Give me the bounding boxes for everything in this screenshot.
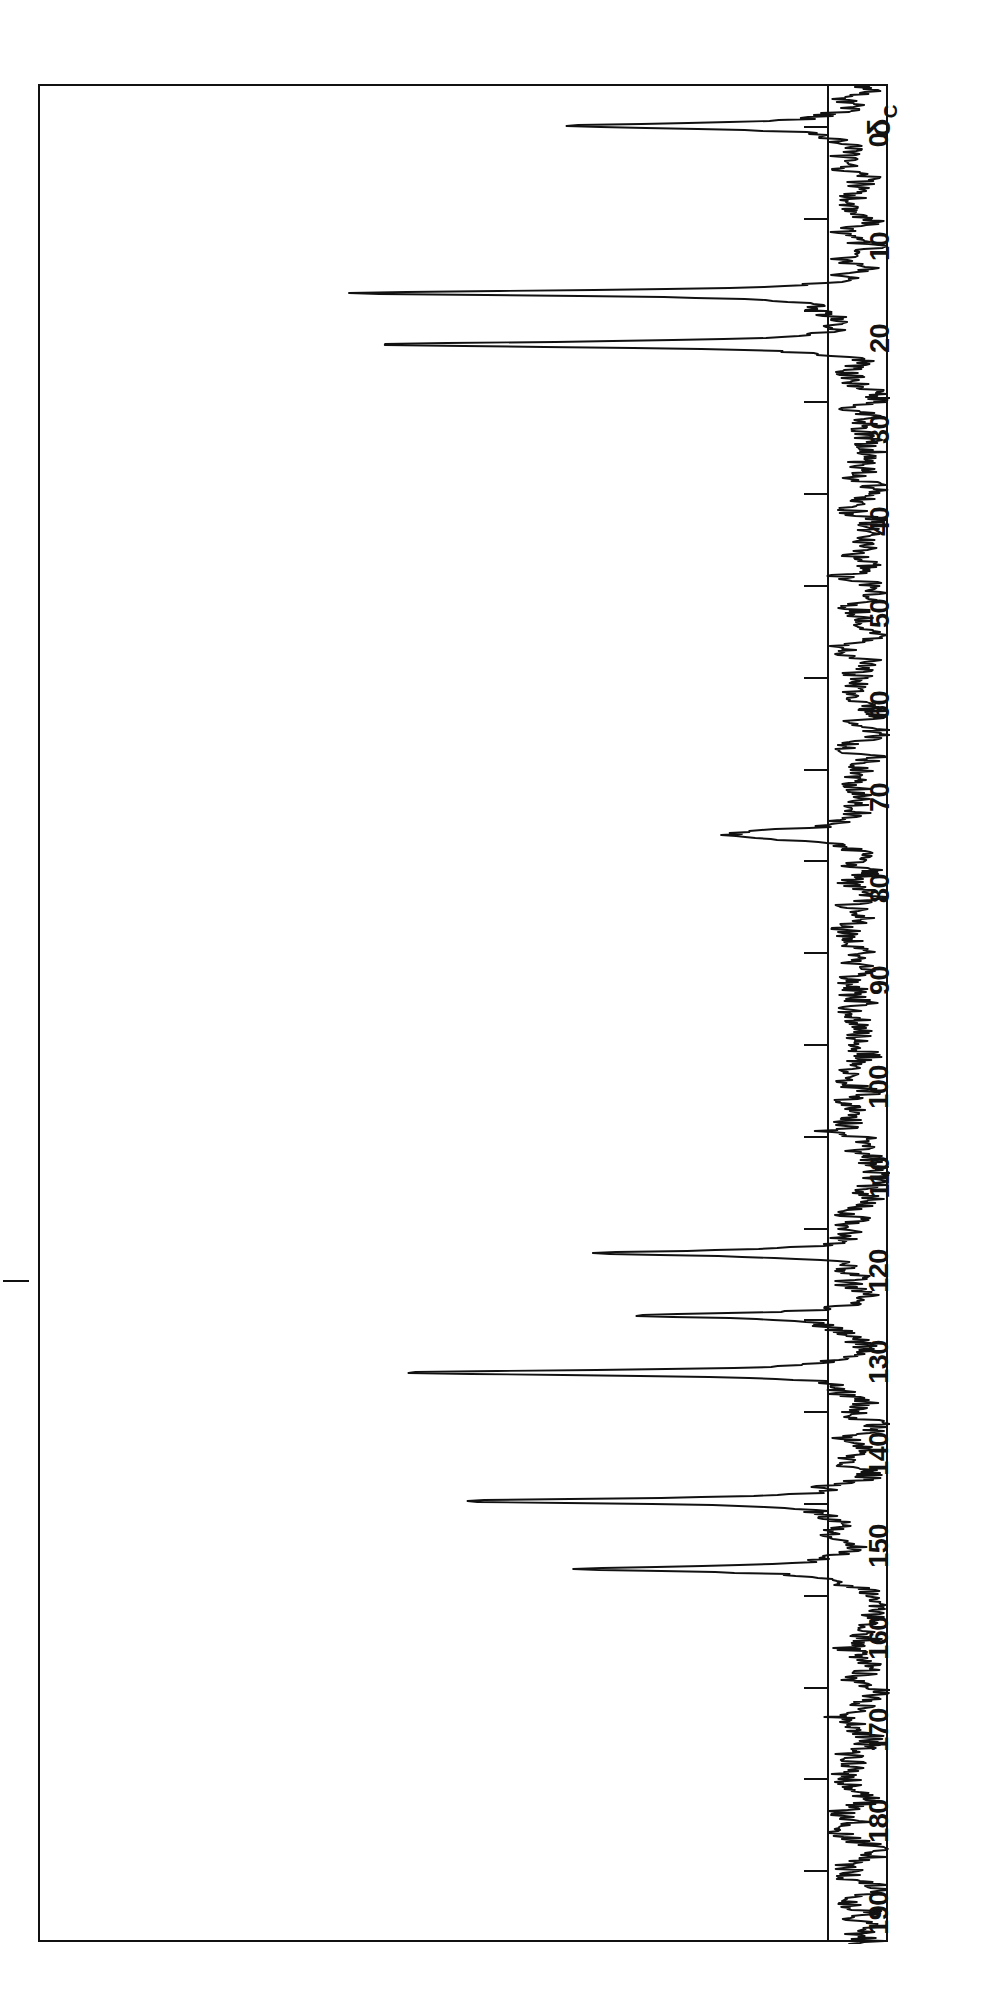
axis-tick-label-190: 190 xyxy=(865,1891,896,1935)
axis-tick-110 xyxy=(804,1136,828,1138)
axis-tick-100 xyxy=(804,1044,828,1046)
axis-tick-150 xyxy=(804,1503,828,1505)
axis-tick-10 xyxy=(804,218,828,220)
axis-tick-label-130: 130 xyxy=(865,1341,896,1385)
axis-tick-label-100: 100 xyxy=(865,1065,896,1109)
axis-tick-label-160: 160 xyxy=(865,1616,896,1660)
chemical-shift-axis: 0102030405060708090100110120130140150160… xyxy=(814,86,886,1940)
axis-tick-label-10: 10 xyxy=(865,232,896,261)
axis-tick-190 xyxy=(804,1870,828,1872)
axis-tick-50 xyxy=(804,585,828,587)
axis-tick-label-20: 20 xyxy=(865,324,896,353)
axis-title-delta-c: δC xyxy=(862,104,902,137)
spectrum-trace xyxy=(40,86,890,1944)
axis-line xyxy=(827,86,829,1940)
axis-tick-label-70: 70 xyxy=(865,783,896,812)
axis-tick-140 xyxy=(804,1411,828,1413)
axis-tick-label-180: 180 xyxy=(865,1800,896,1844)
axis-tick-label-50: 50 xyxy=(865,599,896,628)
axis-tick-80 xyxy=(804,860,828,862)
axis-tick-170 xyxy=(804,1687,828,1689)
axis-tick-40 xyxy=(804,493,828,495)
axis-tick-130 xyxy=(804,1319,828,1321)
axis-tick-label-170: 170 xyxy=(865,1708,896,1752)
axis-tick-label-140: 140 xyxy=(865,1432,896,1476)
stray-tick-mark xyxy=(3,1280,29,1282)
nmr-trace-path xyxy=(349,86,890,1944)
axis-tick-label-110: 110 xyxy=(865,1156,896,1198)
axis-tick-180 xyxy=(804,1778,828,1780)
axis-tick-label-60: 60 xyxy=(865,691,896,720)
figure-canvas: 0102030405060708090100110120130140150160… xyxy=(0,0,984,2008)
axis-tick-label-90: 90 xyxy=(865,966,896,995)
axis-tick-120 xyxy=(804,1228,828,1230)
axis-tick-0 xyxy=(804,126,828,128)
axis-tick-160 xyxy=(804,1595,828,1597)
axis-tick-20 xyxy=(804,310,828,312)
spectrum-frame: 0102030405060708090100110120130140150160… xyxy=(38,84,888,1942)
axis-tick-label-120: 120 xyxy=(865,1249,896,1293)
axis-tick-30 xyxy=(804,401,828,403)
axis-tick-70 xyxy=(804,769,828,771)
axis-tick-label-40: 40 xyxy=(865,507,896,536)
axis-tick-label-30: 30 xyxy=(865,415,896,444)
axis-tick-60 xyxy=(804,677,828,679)
axis-tick-label-80: 80 xyxy=(865,874,896,903)
axis-tick-90 xyxy=(804,952,828,954)
axis-tick-label-150: 150 xyxy=(865,1524,896,1568)
